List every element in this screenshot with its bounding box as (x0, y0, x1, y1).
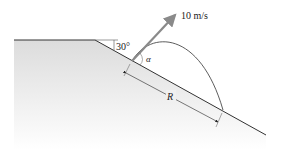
launch-angle-label: α (146, 54, 151, 64)
ground-fill (14, 40, 266, 150)
slope-angle-label: 30° (116, 41, 130, 52)
alpha-arc (140, 53, 143, 65)
velocity-arrow (132, 15, 175, 61)
projectile-slope-diagram: 30° 10 m/s α R (0, 0, 287, 152)
velocity-label: 10 m/s (181, 10, 208, 21)
range-label: R (166, 91, 173, 102)
